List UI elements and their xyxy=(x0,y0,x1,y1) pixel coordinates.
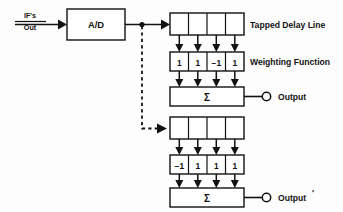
source-label-line1: IF's xyxy=(24,11,36,20)
summer-bottom: Σ xyxy=(170,188,244,207)
output-bottom-prime: ′ xyxy=(312,188,314,198)
output-bottom-label: Output xyxy=(278,193,306,203)
tap-arrows-bottom-lower xyxy=(175,174,239,188)
weighting-function-bottom: −1 1 1 1 xyxy=(170,155,244,174)
output-bottom: Output ′ xyxy=(244,188,314,203)
ad-converter-label: A/D xyxy=(88,19,104,30)
summer-top: Σ xyxy=(170,87,244,106)
weight-cell: −1 xyxy=(212,58,222,68)
ad-converter-block: A/D xyxy=(67,9,125,40)
weight-cell: −1 xyxy=(175,161,185,171)
output-top-terminal xyxy=(262,92,270,100)
tapped-delay-line-top xyxy=(170,13,244,35)
input-arrowhead xyxy=(58,20,67,30)
diagram-canvas: IF's Out A/D xyxy=(0,0,343,212)
delay-line-bottom-arrowhead xyxy=(157,124,167,134)
weight-cell: 1 xyxy=(195,161,200,171)
output-bottom-terminal xyxy=(262,193,270,201)
weight-cell: 1 xyxy=(232,161,237,171)
dashed-branch xyxy=(142,26,167,134)
tap-arrows-bottom-upper xyxy=(175,139,239,155)
source-label: IF's Out xyxy=(15,11,46,32)
weight-cell: 1 xyxy=(195,58,200,68)
matched-filter-diagram: IF's Out A/D xyxy=(0,0,343,212)
weighting-function-top: 1 1 −1 1 xyxy=(170,52,244,71)
output-top: Output xyxy=(244,92,306,102)
summer-bottom-label: Σ xyxy=(204,193,210,204)
weighting-function-label: Weighting Function xyxy=(250,57,330,67)
summer-top-label: Σ xyxy=(204,92,210,103)
weight-cell: 1 xyxy=(177,58,182,68)
weight-cell: 1 xyxy=(232,58,237,68)
tapped-delay-line-bottom xyxy=(170,117,244,139)
tapped-delay-line-label: Tapped Delay Line xyxy=(250,20,326,30)
weight-cell: 1 xyxy=(214,161,219,171)
tap-arrows-top-lower xyxy=(175,71,239,87)
tap-arrows-top-upper xyxy=(175,35,239,52)
output-top-label: Output xyxy=(278,92,306,102)
delay-line-top-arrowhead xyxy=(161,20,170,30)
ad-output-bus xyxy=(125,20,170,30)
